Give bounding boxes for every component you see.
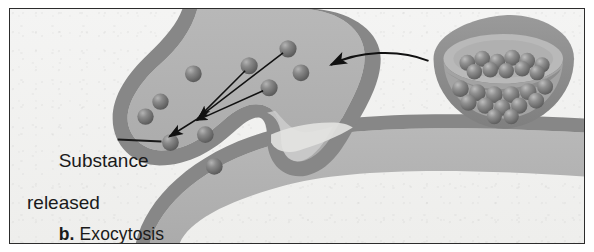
vesicle-granule [530, 65, 545, 80]
granule-inside [293, 64, 310, 81]
substance-released-line1: Substance [59, 150, 149, 171]
granule-released [206, 158, 223, 175]
panel-caption: b. Exocytosis [29, 203, 164, 244]
granule-inside [261, 79, 278, 96]
granule-released [197, 126, 214, 143]
vesicle-granule [460, 94, 476, 110]
granule-inside [279, 40, 296, 57]
vesicle-granule [504, 109, 519, 124]
vesicle-granule [483, 62, 499, 78]
granule-inside [152, 94, 168, 110]
panel-title: Exocytosis [80, 224, 165, 244]
vesicle-granule [537, 79, 553, 95]
vesicle-granule [498, 63, 514, 79]
figure-root: Substance released b. Exocytosis [0, 0, 594, 252]
vesicle-granule [467, 64, 483, 80]
vesicle-granule [487, 109, 502, 124]
figure-frame: Substance released b. Exocytosis [9, 8, 585, 244]
granule-released [137, 108, 153, 124]
vesicle-granule [528, 93, 544, 109]
panel-letter: b. [59, 224, 75, 244]
vesicle-granule [452, 80, 469, 97]
granule-inside [185, 65, 202, 82]
vesicle-granule [514, 61, 530, 77]
secretory-vesicle-inset [434, 15, 575, 129]
